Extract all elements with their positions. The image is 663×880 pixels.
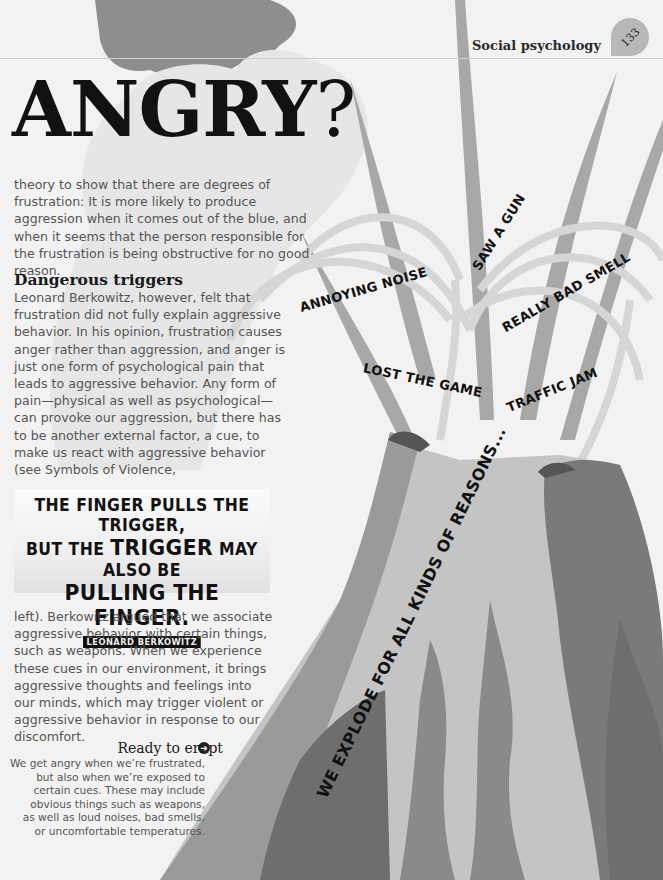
header-rule	[0, 58, 663, 59]
intro-paragraph: theory to show that there are degrees of…	[14, 176, 314, 279]
book-page: Social psychology 133 ANGRY? theory to s…	[0, 0, 663, 880]
arrow-right-circle-icon: ➜	[198, 742, 210, 754]
page-number-badge: 133	[611, 18, 649, 56]
quote-line-1: THE FINGER PULLS THE TRIGGER,	[14, 495, 270, 535]
callout-text: We get angry when we’re frustrated, but …	[10, 757, 205, 839]
section-heading: Dangerous triggers	[14, 270, 183, 289]
title-question-mark: ?	[315, 65, 355, 154]
section-paragraph-1: Leonard Berkowitz, however, felt that fr…	[14, 289, 286, 478]
page-number: 133	[618, 25, 642, 49]
page-title: ANGRY?	[12, 72, 355, 148]
quote-line-2: BUT THE TRIGGER MAY ALSO BE	[14, 535, 270, 580]
title-word: ANGRY	[12, 65, 315, 154]
section-paragraph-2: left). Berkowitz argued that we associat…	[14, 608, 276, 746]
pull-quote: THE FINGER PULLS THE TRIGGER, BUT THE TR…	[14, 489, 270, 593]
section-label: Social psychology	[472, 38, 601, 53]
